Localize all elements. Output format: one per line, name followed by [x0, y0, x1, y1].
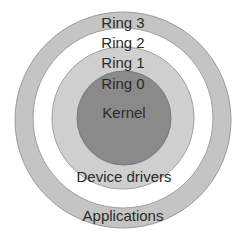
device-drivers-label: Device drivers	[76, 168, 171, 185]
rings-svg: Ring 3 Ring 2 Ring 1 Ring 0 Kernel Devic…	[0, 0, 246, 240]
ring-1-label: Ring 1	[101, 54, 144, 71]
ring-2-label: Ring 2	[101, 34, 144, 51]
ring-3-label: Ring 3	[101, 14, 144, 31]
ring-0-label: Ring 0	[101, 75, 144, 92]
applications-label: Applications	[83, 207, 164, 224]
protection-rings-diagram: Ring 3 Ring 2 Ring 1 Ring 0 Kernel Devic…	[0, 0, 246, 240]
kernel-label: Kernel	[102, 104, 145, 121]
